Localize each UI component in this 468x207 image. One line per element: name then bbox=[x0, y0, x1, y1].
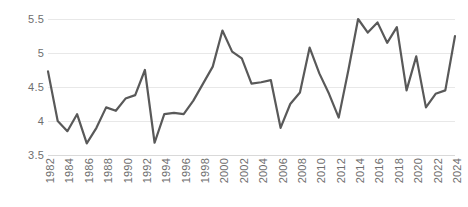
x-tick-label: 2024 bbox=[451, 158, 463, 183]
x-tick-label: 2010 bbox=[315, 158, 327, 183]
x-tick-label: 2022 bbox=[432, 158, 444, 183]
x-tick-label: 1998 bbox=[199, 158, 211, 183]
gridlines bbox=[48, 20, 455, 156]
y-tick-label: 5.5 bbox=[28, 13, 44, 25]
x-tick-label: 2006 bbox=[277, 158, 289, 183]
line-chart: 3.544.555.5 1982198419861988199019921994… bbox=[0, 0, 468, 207]
y-tick-label: 5 bbox=[38, 47, 44, 59]
x-tick-label: 1994 bbox=[160, 158, 172, 183]
x-tick-label: 1988 bbox=[102, 158, 114, 183]
x-tick-label: 1996 bbox=[180, 158, 192, 183]
x-tick-label: 2004 bbox=[257, 158, 269, 183]
plot-area bbox=[48, 19, 455, 155]
x-tick-label: 2000 bbox=[218, 158, 230, 183]
y-tick-label: 4 bbox=[38, 115, 44, 127]
y-tick-label: 4.5 bbox=[28, 81, 44, 93]
x-axis: 1982198419861988199019921994199619982000… bbox=[48, 158, 455, 207]
y-axis: 3.544.555.5 bbox=[0, 0, 44, 207]
x-tick-label: 2008 bbox=[296, 158, 308, 183]
y-tick-label: 3.5 bbox=[28, 149, 44, 161]
x-tick-label: 2016 bbox=[373, 158, 385, 183]
x-tick-label: 1982 bbox=[44, 158, 56, 183]
plot-svg bbox=[48, 19, 455, 155]
x-tick-label: 2012 bbox=[335, 158, 347, 183]
x-tick-label: 1992 bbox=[141, 158, 153, 183]
x-tick-label: 2018 bbox=[393, 158, 405, 183]
x-tick-label: 2002 bbox=[238, 158, 250, 183]
data-series-line bbox=[48, 19, 455, 143]
x-tick-label: 1984 bbox=[63, 158, 75, 183]
x-tick-label: 2020 bbox=[412, 158, 424, 183]
x-tick-label: 1986 bbox=[83, 158, 95, 183]
x-tick-label: 2014 bbox=[354, 158, 366, 183]
x-tick-label: 1990 bbox=[122, 158, 134, 183]
